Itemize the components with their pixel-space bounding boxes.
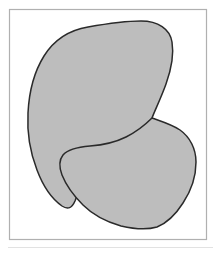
blob-diagram [0,0,221,253]
figure-container [0,0,221,253]
